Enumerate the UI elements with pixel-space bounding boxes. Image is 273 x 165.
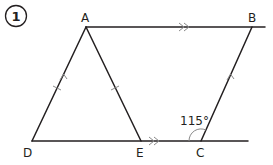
segment-ad — [32, 27, 86, 141]
question-number-badge: 1 — [6, 6, 27, 27]
angle-label: 115° — [180, 114, 209, 128]
parallel-arrow-ad — [60, 74, 67, 80]
geometry-diagram: 1 115° A B C D E — [0, 0, 273, 165]
segment-ae — [86, 27, 141, 141]
question-number: 1 — [11, 9, 20, 24]
vertex-label-e: E — [136, 146, 144, 160]
parallel-arrow-cb — [227, 74, 234, 80]
vertex-label-c: C — [196, 146, 204, 160]
vertex-label-b: B — [248, 11, 256, 25]
vertex-label-a: A — [81, 11, 90, 25]
vertex-label-d: D — [23, 146, 32, 160]
